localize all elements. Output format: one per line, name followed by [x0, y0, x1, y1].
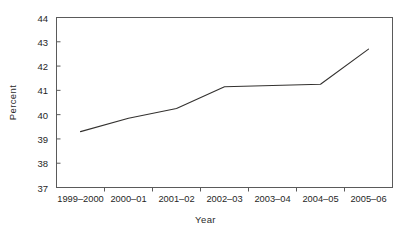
x-tick-label: 2002–03 — [206, 194, 242, 204]
x-tick-label: 2004–05 — [302, 194, 338, 204]
x-tick-label: 2001–02 — [158, 194, 194, 204]
x-tick-label: 2003–04 — [254, 194, 290, 204]
chart-figure: Percent 3738394041424344 1999–20002000–0… — [0, 0, 411, 240]
x-axis-title: Year — [0, 214, 411, 225]
x-axis-tick-labels: 1999–20002000–012001–022002–032003–04200… — [0, 0, 411, 240]
x-tick-label: 1999–2000 — [57, 194, 104, 204]
x-tick-label: 2005–06 — [350, 194, 386, 204]
x-tick-label: 2000–01 — [110, 194, 146, 204]
